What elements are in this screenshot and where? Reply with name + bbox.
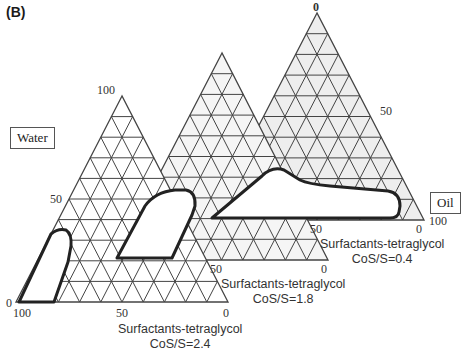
surfactant-label: Surfactants-tetraglycol <box>221 277 345 292</box>
tick-bottom-0-front: 0 <box>223 306 229 321</box>
tick-bottom-50-front: 50 <box>116 306 128 321</box>
tick-left-50: 50 <box>50 192 62 207</box>
panel-label: (B) <box>6 4 25 20</box>
tick-apex-0: 0 <box>313 0 319 15</box>
tick-bottom-100: 100 <box>13 306 31 321</box>
tick-apex-100: 100 <box>97 83 115 98</box>
oil-axis-label: Oil <box>430 192 461 214</box>
caption-cos-s-1.8: Surfactants-tetraglycol CoS/S=1.8 <box>221 277 345 307</box>
tick-bottom-0-back: 0 <box>416 222 422 237</box>
ternary-phase-diagram-figure: (B) Water Oil 0 50 100 0 50 Surfactants-… <box>0 0 466 356</box>
tick-left-0: 0 <box>6 296 12 311</box>
ratio-label: CoS/S=2.4 <box>118 337 242 352</box>
surfactant-label: Surfactants-tetraglycol <box>320 237 444 252</box>
tick-bottom-50-mid: 50 <box>210 262 222 277</box>
tick-right-100: 100 <box>429 214 447 229</box>
surfactant-label: Surfactants-tetraglycol <box>118 322 242 337</box>
ratio-label: CoS/S=0.4 <box>320 252 444 267</box>
caption-cos-s-2.4: Surfactants-tetraglycol CoS/S=2.4 <box>118 322 242 352</box>
caption-cos-s-0.4: Surfactants-tetraglycol CoS/S=0.4 <box>320 237 444 267</box>
tick-bottom-50-back: 50 <box>310 222 322 237</box>
tick-bottom-0-mid: 0 <box>321 262 327 277</box>
water-axis-label: Water <box>10 127 55 149</box>
ratio-label: CoS/S=1.8 <box>221 292 345 307</box>
tick-right-50: 50 <box>380 104 392 119</box>
